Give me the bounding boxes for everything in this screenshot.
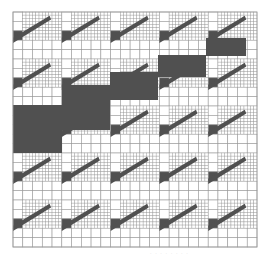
fractal-grid-figure: [0, 0, 266, 262]
figure-caption: · · · · · · · ·: [150, 250, 189, 256]
